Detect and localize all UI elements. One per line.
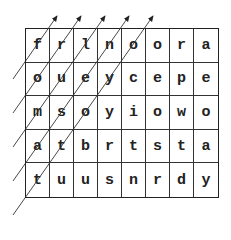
- grid-cell: p: [170, 63, 194, 97]
- grid-cell: o: [26, 63, 50, 97]
- grid-cell: a: [194, 29, 218, 63]
- letter-grid: frlnooraoueycepemsoyiowoatbrtstatuusnrdy: [25, 28, 219, 198]
- grid-cell: t: [50, 130, 74, 164]
- grid-cell: y: [98, 63, 122, 97]
- grid-cell: i: [122, 96, 146, 130]
- grid-cell: u: [74, 163, 98, 197]
- grid-cell: b: [74, 130, 98, 164]
- grid-cell: r: [146, 163, 170, 197]
- grid-cell: r: [50, 29, 74, 63]
- grid-cell: s: [98, 163, 122, 197]
- grid-cell: u: [50, 63, 74, 97]
- grid-cell: o: [194, 96, 218, 130]
- grid-cell: s: [146, 130, 170, 164]
- grid-cell: t: [26, 163, 50, 197]
- grid-cell: s: [50, 96, 74, 130]
- grid-cell: u: [50, 163, 74, 197]
- grid-cell: a: [194, 130, 218, 164]
- grid-cell: y: [98, 96, 122, 130]
- grid-cell: t: [122, 130, 146, 164]
- grid-cell: d: [170, 163, 194, 197]
- grid-cell: r: [170, 29, 194, 63]
- grid-cell: o: [146, 96, 170, 130]
- grid-cell: n: [122, 163, 146, 197]
- grid-cell: c: [122, 63, 146, 97]
- grid-cell: m: [26, 96, 50, 130]
- grid-cell: l: [74, 29, 98, 63]
- grid-cell: o: [74, 96, 98, 130]
- grid-cell: e: [74, 63, 98, 97]
- grid-cell: o: [146, 29, 170, 63]
- grid-cell: n: [98, 29, 122, 63]
- grid-cell: t: [170, 130, 194, 164]
- grid-cell: o: [122, 29, 146, 63]
- grid-cell: f: [26, 29, 50, 63]
- grid-cell: e: [194, 63, 218, 97]
- grid-cell: y: [194, 163, 218, 197]
- grid-cell: w: [170, 96, 194, 130]
- grid-cell: a: [26, 130, 50, 164]
- grid-cell: r: [98, 130, 122, 164]
- grid-cell: e: [146, 63, 170, 97]
